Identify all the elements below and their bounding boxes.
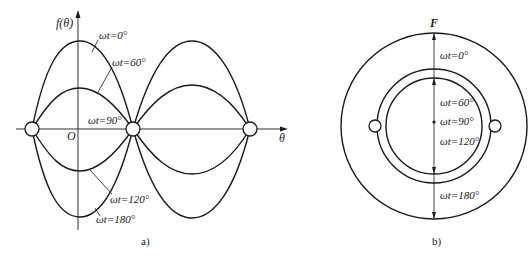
label-b-wt60: ωt=60°	[440, 96, 474, 108]
arrow-down-outer-icon	[432, 212, 436, 219]
node-circle-middle	[126, 122, 140, 136]
y-axis-label: f(θ)	[56, 16, 73, 30]
center-dot	[432, 120, 435, 123]
label-wt60: ωt=60°	[112, 56, 146, 68]
x-axis-label: θ	[279, 131, 285, 145]
label-wt120: ωt=120°	[110, 193, 150, 205]
leader-wt120	[90, 170, 112, 194]
arrow-up-outer-icon	[432, 33, 436, 40]
arrow-down-inner-icon	[432, 167, 436, 174]
side-circle-right	[489, 120, 501, 132]
curve-wt120-left	[32, 129, 133, 171]
node-circle-left	[25, 122, 39, 136]
figure-a: f(θ) θ O ωt=0° ωt=60° ωt=90° ωt=120° ωt=…	[16, 10, 288, 248]
label-wt0: ωt=0°	[99, 29, 128, 41]
curve-wt120-right	[133, 129, 250, 174]
label-wt180: ωt=180°	[96, 213, 136, 225]
origin-label: O	[67, 129, 76, 143]
y-axis-arrow-icon	[76, 10, 81, 18]
arrow-up-inner-icon	[432, 78, 436, 85]
figure-b: F ωt=0° ωt=60° ωt=90° ωt=120° ωt=180° b)	[341, 16, 527, 248]
label-b-wt90: ωt=90°	[440, 115, 474, 127]
leader-wt0	[92, 40, 98, 52]
leader-wt60	[97, 67, 112, 94]
side-circle-left	[369, 120, 381, 132]
caption-a: a)	[141, 235, 150, 248]
caption-b: b)	[432, 235, 442, 248]
node-circle-right	[243, 122, 257, 136]
force-label: F	[429, 16, 438, 30]
label-wt90: ωt=90°	[88, 114, 122, 126]
label-b-wt120: ωt=120°	[440, 135, 480, 147]
label-b-wt0: ωt=0°	[440, 49, 469, 61]
curve-wt60-right	[133, 85, 250, 129]
figure-canvas: f(θ) θ O ωt=0° ωt=60° ωt=90° ωt=120° ωt=…	[0, 0, 531, 259]
label-b-wt180: ωt=180°	[440, 189, 480, 201]
